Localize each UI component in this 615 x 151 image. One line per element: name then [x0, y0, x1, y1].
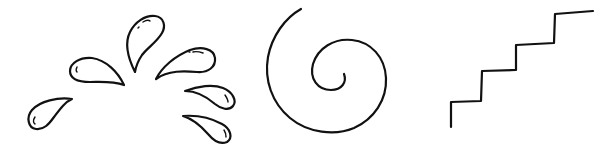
- droplet-2: [70, 58, 124, 85]
- droplet-1: [29, 98, 72, 129]
- droplet-4: [156, 48, 215, 79]
- splash-drops-icon: [29, 16, 235, 143]
- droplet-3: [127, 16, 164, 72]
- spiral-icon: [267, 9, 386, 132]
- droplet-6: [183, 116, 230, 143]
- droplet-5: [185, 86, 235, 109]
- icon-canvas: [0, 0, 615, 151]
- stairs-icon: [451, 11, 593, 127]
